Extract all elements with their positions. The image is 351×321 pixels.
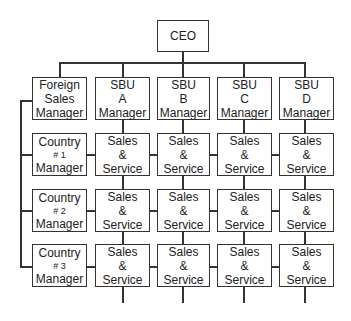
box-line: Sales xyxy=(291,190,321,204)
spine-r2 xyxy=(20,210,32,212)
box-line: Sales xyxy=(291,245,321,259)
box-line: Sales xyxy=(107,190,137,204)
box-line: Manager xyxy=(99,106,146,120)
box-line: & xyxy=(240,259,248,273)
drop-sbu-a xyxy=(122,62,124,77)
box-line: Sales xyxy=(107,134,137,148)
sales-service-box: Sales & Service xyxy=(279,244,334,287)
sbu-d-manager-box: SBU D Manager xyxy=(279,77,334,120)
box-line: Sales xyxy=(229,134,259,148)
box-line: Service xyxy=(224,273,264,287)
spine-r3 xyxy=(20,266,32,268)
box-line: & xyxy=(302,204,310,218)
box-line: & xyxy=(302,259,310,273)
box-line: Sales xyxy=(44,92,74,106)
box-line: Service xyxy=(163,273,203,287)
box-line: & xyxy=(240,148,248,162)
box-line: C xyxy=(240,92,249,106)
box-line: A xyxy=(118,92,126,106)
box-line: Sales xyxy=(107,245,137,259)
box-line: Manager xyxy=(36,217,83,231)
spine-top xyxy=(20,100,32,102)
box-line: # 1 xyxy=(53,149,66,161)
box-line: Manager xyxy=(36,161,83,175)
box-line: & xyxy=(179,259,187,273)
drop-sbu-c xyxy=(243,62,245,77)
box-line: Manager xyxy=(36,272,83,286)
sbu-c-manager-box: SBU C Manager xyxy=(217,77,272,120)
sales-service-box: Sales & Service xyxy=(157,189,210,232)
ceo-box: CEO xyxy=(157,20,209,52)
box-line: Sales xyxy=(229,245,259,259)
box-line: Service xyxy=(163,218,203,232)
box-line: Sales xyxy=(229,190,259,204)
box-line: & xyxy=(179,204,187,218)
box-line: Service xyxy=(286,162,326,176)
sbu-a-manager-box: SBU A Manager xyxy=(95,77,150,120)
country-2-manager-box: Country # 2 Manager xyxy=(32,189,87,232)
box-line: D xyxy=(302,92,311,106)
box-line: Country xyxy=(38,191,80,205)
sales-service-box: Sales & Service xyxy=(279,189,334,232)
box-line: Service xyxy=(286,273,326,287)
box-line: Manager xyxy=(160,106,207,120)
box-line: # 3 xyxy=(53,260,66,272)
drop-foreign xyxy=(59,62,61,77)
box-line: SBU xyxy=(171,78,196,92)
box-line: & xyxy=(118,148,126,162)
box-line: Service xyxy=(224,162,264,176)
box-line: Manager xyxy=(283,106,330,120)
box-line: Country xyxy=(38,246,80,260)
box-line: # 2 xyxy=(53,205,66,217)
country-1-manager-box: Country # 1 Manager xyxy=(32,133,87,176)
sales-service-box: Sales & Service xyxy=(157,244,210,287)
spine-r1 xyxy=(20,154,32,156)
box-line: & xyxy=(179,148,187,162)
country-3-manager-box: Country # 3 Manager xyxy=(32,244,87,287)
sales-service-box: Sales & Service xyxy=(157,133,210,176)
box-line: Sales xyxy=(291,134,321,148)
box-line: & xyxy=(118,204,126,218)
box-line: SBU xyxy=(110,78,135,92)
drop-sbu-b xyxy=(182,62,184,77)
sales-service-box: Sales & Service xyxy=(217,133,272,176)
box-line: Sales xyxy=(168,134,198,148)
sales-service-box: Sales & Service xyxy=(95,189,150,232)
box-line: B xyxy=(179,92,187,106)
sales-service-box: Sales & Service xyxy=(95,244,150,287)
sales-service-box: Sales & Service xyxy=(95,133,150,176)
drop-sbu-d xyxy=(304,62,306,77)
box-line: Service xyxy=(102,273,142,287)
box-line: Service xyxy=(224,218,264,232)
box-line: & xyxy=(240,204,248,218)
box-line: Manager xyxy=(36,106,83,120)
box-line: & xyxy=(118,259,126,273)
sales-service-box: Sales & Service xyxy=(217,189,272,232)
org-chart: CEO Foreign Sales Manager SBU A Manager … xyxy=(0,0,351,321)
box-line: Manager xyxy=(221,106,268,120)
box-line: Sales xyxy=(168,245,198,259)
foreign-spine xyxy=(20,100,22,268)
box-line: SBU xyxy=(294,78,319,92)
box-line: Service xyxy=(102,162,142,176)
box-line: Service xyxy=(286,218,326,232)
box-line: & xyxy=(302,148,310,162)
sales-service-box: Sales & Service xyxy=(217,244,272,287)
box-line: Service xyxy=(163,162,203,176)
foreign-sales-manager-box: Foreign Sales Manager xyxy=(32,77,87,120)
sbu-b-manager-box: SBU B Manager xyxy=(157,77,210,120)
box-line: Foreign xyxy=(39,78,80,92)
sales-service-box: Sales & Service xyxy=(279,133,334,176)
ceo-label: CEO xyxy=(170,29,196,43)
box-line: Sales xyxy=(168,190,198,204)
box-line: Country xyxy=(38,135,80,149)
box-line: SBU xyxy=(232,78,257,92)
box-line: Service xyxy=(102,218,142,232)
